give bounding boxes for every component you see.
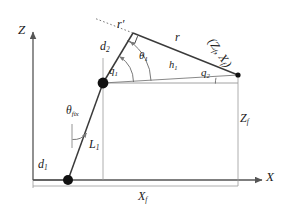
r-prime-dotted-line: [94, 18, 133, 33]
construction-lines-group: [33, 58, 238, 188]
base-joint-marker: [63, 175, 73, 185]
link-r: [133, 33, 238, 75]
links-group: [68, 33, 238, 180]
r-prime-group: [94, 18, 133, 33]
kinematic-diagram: Z X r′ d2 r θ1 q1 h1 q2 (Zf, Xf) Zf Xf θ…: [0, 0, 284, 213]
joints-group: [63, 72, 241, 185]
link-d2: [103, 33, 133, 83]
diagram-canvas: [0, 0, 284, 213]
endpoint-marker: [235, 72, 240, 77]
link-l1: [68, 83, 103, 180]
q1-angle-arc: [120, 57, 134, 83]
angle-arcs-group: [73, 42, 217, 140]
link-h1: [103, 75, 238, 83]
axes-group: [33, 32, 262, 180]
elbow-joint-marker: [98, 78, 109, 89]
